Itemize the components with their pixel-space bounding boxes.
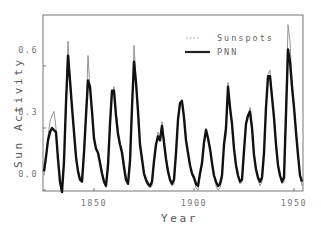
legend: Sunspots PNN <box>185 33 274 57</box>
legend-sunspots-label: Sunspots <box>217 33 274 43</box>
series-group <box>44 25 302 193</box>
legend-pnn-label: PNN <box>217 47 238 57</box>
x-tick-label: 1850 <box>81 198 107 208</box>
x-axis-label: Year <box>161 212 198 225</box>
y-tick-label: 0.0 <box>18 169 38 179</box>
y-axis-label: Sun Activity <box>12 57 25 168</box>
x-tick-label: 1950 <box>281 198 307 208</box>
x-tick-label: 1900 <box>181 198 207 208</box>
sun-activity-chart: 0.00.30.6 185019001950 Sunspots PNN Year… <box>0 0 321 235</box>
y-tick-label: 0.6 <box>18 45 38 55</box>
pnn-line <box>44 49 302 192</box>
